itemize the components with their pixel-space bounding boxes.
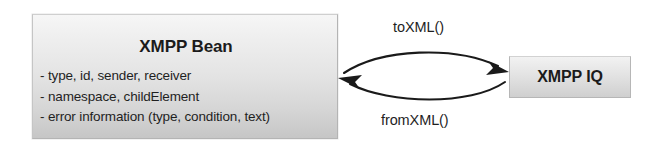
- from-xml-label: fromXML(): [381, 112, 449, 128]
- arrow-group: [0, 0, 661, 151]
- to-xml-arrow-icon: [344, 52, 509, 75]
- xmpp-conversion-diagram: XMPP Bean - type, id, sender, receiver -…: [0, 0, 661, 151]
- from-xml-arrow-icon: [338, 75, 505, 100]
- to-xml-label: toXML(): [393, 19, 444, 35]
